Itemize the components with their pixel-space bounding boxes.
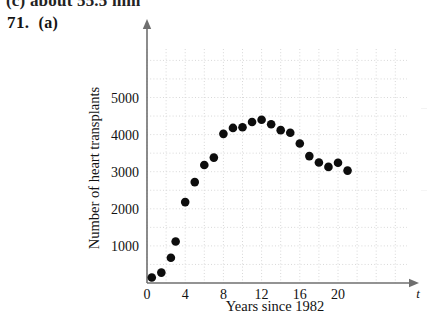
data-point xyxy=(324,163,333,172)
data-point xyxy=(296,139,305,148)
data-point xyxy=(219,130,228,139)
data-point xyxy=(305,152,314,161)
data-point xyxy=(267,120,276,129)
data-point xyxy=(171,237,180,246)
y-tick-label: 2000 xyxy=(111,202,139,217)
page-edge-artifact-top xyxy=(421,108,427,109)
data-point xyxy=(167,253,176,262)
data-point xyxy=(229,124,238,133)
y-tick-label: 5000 xyxy=(111,91,139,106)
data-point xyxy=(276,126,285,135)
x-axis-variable-label: t xyxy=(416,286,420,301)
chart-svg: 04812162010002000300040005000 Years sinc… xyxy=(0,0,427,322)
y-tick-label: 3000 xyxy=(111,165,139,180)
data-point xyxy=(238,123,247,132)
data-point xyxy=(315,158,324,167)
data-point xyxy=(248,118,257,127)
x-tick-label: 4 xyxy=(182,287,189,302)
data-point xyxy=(147,273,156,282)
heart-transplants-scatter-figure: 04812162010002000300040005000 Years sinc… xyxy=(0,0,427,322)
data-point xyxy=(157,268,166,277)
page-edge-artifact-bottom xyxy=(421,190,427,191)
data-point xyxy=(181,198,190,207)
y-tick-label: 1000 xyxy=(111,239,139,254)
x-tick-label: 0 xyxy=(144,287,151,302)
data-point xyxy=(343,166,352,175)
data-point xyxy=(190,178,199,187)
data-point xyxy=(200,161,209,170)
grid-layer xyxy=(147,49,407,283)
data-point xyxy=(286,128,295,137)
tick-labels-layer: 04812162010002000300040005000 xyxy=(111,91,345,303)
x-tick-label: 20 xyxy=(331,287,345,302)
y-axis-title: Number of heart transplants xyxy=(86,87,102,250)
data-point xyxy=(210,153,219,162)
data-point xyxy=(257,115,266,124)
data-points-layer xyxy=(147,115,351,281)
data-point xyxy=(334,158,343,167)
y-tick-label: 4000 xyxy=(111,128,139,143)
x-axis-title: Years since 1982 xyxy=(226,298,324,314)
